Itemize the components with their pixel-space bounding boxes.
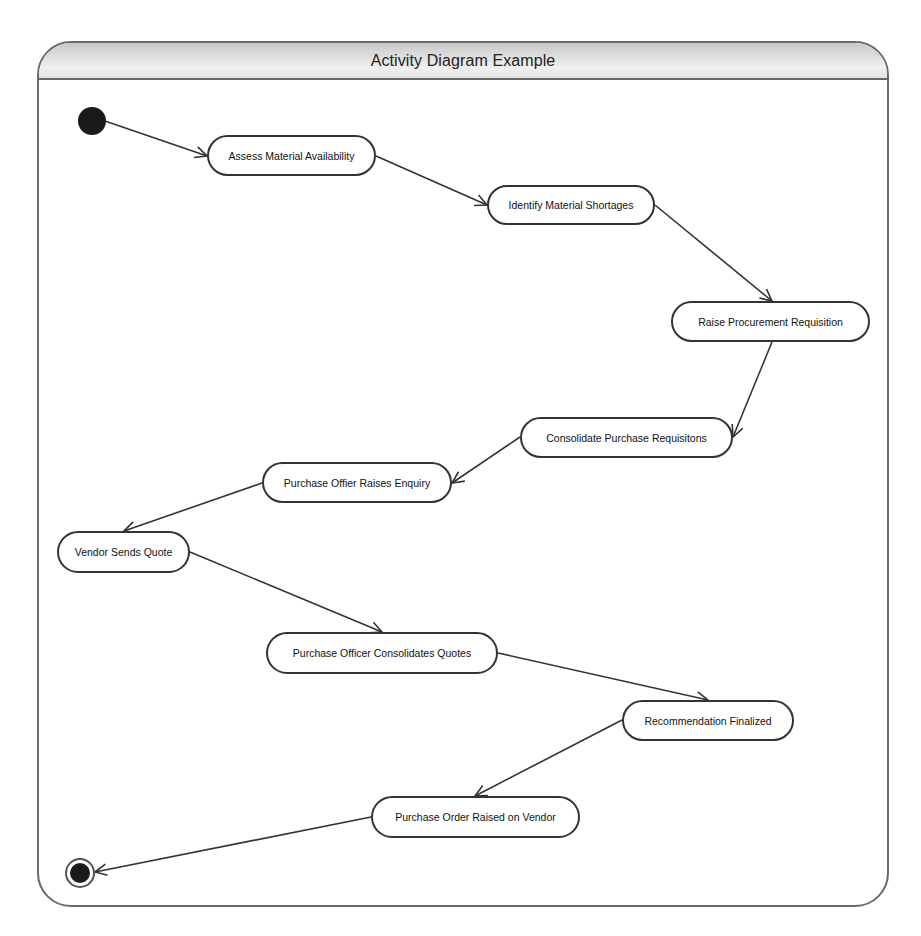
activity-label: Vendor Sends Quote [75, 546, 173, 558]
activity-label: Raise Procurement Requisition [698, 316, 843, 328]
flow-arrow[interactable] [452, 437, 520, 483]
activity-node[interactable]: Purchase Officer Consolidates Quotes [266, 632, 498, 674]
activity-label: Recommendation Finalized [644, 715, 771, 727]
activity-node[interactable]: Recommendation Finalized [622, 700, 794, 741]
activity-node[interactable]: Identify Material Shortages [487, 185, 655, 225]
activity-node[interactable]: Purchase Order Raised on Vendor [371, 796, 580, 838]
activity-node[interactable]: Vendor Sends Quote [57, 531, 190, 573]
flow-arrow[interactable] [376, 156, 487, 205]
final-node-icon [70, 863, 90, 883]
activity-node[interactable]: Purchase Offier Raises Enquiry [262, 462, 452, 503]
flow-arrow[interactable] [105, 121, 207, 158]
activity-label: Purchase Order Raised on Vendor [395, 811, 556, 823]
flow-arrow[interactable] [655, 205, 772, 301]
flow-arrow[interactable] [95, 817, 371, 875]
activity-label: Purchase Officer Consolidates Quotes [293, 647, 471, 659]
activity-label: Identify Material Shortages [509, 199, 634, 211]
activity-label: Consolidate Purchase Requisitons [546, 432, 707, 444]
terminal-nodes [66, 107, 106, 887]
flow-arrow[interactable] [190, 552, 382, 633]
activity-label: Assess Material Availability [229, 150, 355, 162]
flow-arrow[interactable] [475, 720, 622, 796]
activity-node[interactable]: Assess Material Availability [207, 135, 376, 176]
flow-arrow[interactable] [732, 342, 772, 437]
flow-arrow[interactable] [124, 483, 262, 532]
activity-node[interactable]: Consolidate Purchase Requisitons [520, 417, 733, 458]
activity-node[interactable]: Raise Procurement Requisition [671, 301, 870, 342]
activity-label: Purchase Offier Raises Enquiry [284, 477, 430, 489]
initial-node-icon[interactable] [78, 107, 106, 135]
flow-arrow[interactable] [498, 653, 708, 703]
diagram-canvas: Activity Diagram Example Assess Material… [0, 0, 921, 936]
